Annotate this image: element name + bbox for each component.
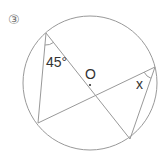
center-o-label: O (85, 66, 96, 82)
diagram-canvas: ③ 45° O x (0, 0, 167, 160)
angle-45-label: 45° (46, 54, 67, 70)
problem-number: ③ (8, 12, 20, 27)
chord-ab (38, 33, 46, 123)
chord-ac (46, 33, 130, 139)
center-point (89, 84, 91, 86)
inscribed-angle-diagram: ③ 45° O x (0, 0, 167, 160)
angle-x-label: x (136, 76, 143, 92)
angle-arc-a (45, 42, 54, 45)
angle-arc-d (144, 72, 151, 78)
